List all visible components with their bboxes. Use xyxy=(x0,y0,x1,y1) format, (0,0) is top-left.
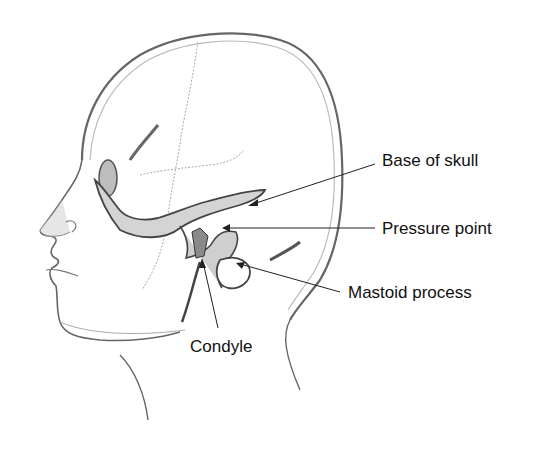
nose xyxy=(40,200,70,236)
mastoid-bone xyxy=(217,258,250,289)
label-base-of-skull: Base of skull xyxy=(382,152,478,169)
neck-front xyxy=(120,355,148,420)
brow-ridge xyxy=(130,125,158,160)
occipital-shading xyxy=(270,242,300,260)
zygomatic-arch xyxy=(95,180,265,237)
skull-outline xyxy=(82,33,342,320)
label-pressure-point: Pressure point xyxy=(382,220,492,237)
mandible-ramus xyxy=(182,262,200,322)
neck-back xyxy=(286,320,300,390)
suture-squamosal xyxy=(140,150,244,175)
leader-base-of-skull xyxy=(250,164,375,205)
label-mastoid-process: Mastoid process xyxy=(348,284,472,301)
diagram-canvas: Base of skull Pressure point Mastoid pro… xyxy=(0,0,541,461)
jaw-line xyxy=(60,322,185,334)
label-condyle: Condyle xyxy=(190,338,252,355)
